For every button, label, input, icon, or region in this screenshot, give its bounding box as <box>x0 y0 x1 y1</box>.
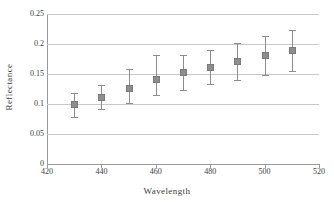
x-tick-label: 420 <box>27 167 67 176</box>
error-bar-cap <box>262 36 269 37</box>
error-bar-cap <box>207 50 214 51</box>
gridline <box>47 44 319 45</box>
error-bar-cap <box>180 55 187 56</box>
error-bar-cap <box>98 85 105 86</box>
gridline <box>47 104 319 105</box>
y-axis-title: Reflectance <box>4 47 14 127</box>
gridline <box>47 14 319 15</box>
data-point-marker <box>180 69 187 76</box>
error-bar-cap <box>153 55 160 56</box>
error-bar-cap <box>98 109 105 110</box>
x-tick-label: 520 <box>299 167 334 176</box>
error-bar-cap <box>126 69 133 70</box>
reflectance-scatter-chart: 00.050.10.150.20.25 420440460480500520 W… <box>0 0 334 208</box>
data-point-marker <box>153 76 160 83</box>
error-bar-cap <box>289 71 296 72</box>
error-bar-cap <box>262 75 269 76</box>
data-point-marker <box>262 52 269 59</box>
data-point-marker <box>207 64 214 71</box>
error-bar-cap <box>289 30 296 31</box>
y-tick-label: 0.05 <box>0 130 44 138</box>
error-bar-cap <box>153 95 160 96</box>
error-bar-cap <box>126 103 133 104</box>
x-tick-label: 480 <box>190 167 230 176</box>
data-point-marker <box>289 47 296 54</box>
data-point-marker <box>126 85 133 92</box>
data-point-marker <box>71 101 78 108</box>
data-point-marker <box>98 94 105 101</box>
x-tick-label: 440 <box>81 167 121 176</box>
data-point-marker <box>234 58 241 65</box>
x-axis-title: Wavelength <box>0 186 334 196</box>
error-bar-cap <box>71 117 78 118</box>
error-bar-cap <box>71 93 78 94</box>
error-bar <box>156 55 157 95</box>
error-bar-cap <box>234 80 241 81</box>
y-tick-label: 0.25 <box>0 10 44 18</box>
error-bar-cap <box>207 84 214 85</box>
error-bar-cap <box>180 90 187 91</box>
x-tick-label: 500 <box>245 167 285 176</box>
error-bar-cap <box>234 43 241 44</box>
x-axis-line <box>47 164 319 165</box>
gridline <box>47 134 319 135</box>
x-tick-label: 460 <box>136 167 176 176</box>
